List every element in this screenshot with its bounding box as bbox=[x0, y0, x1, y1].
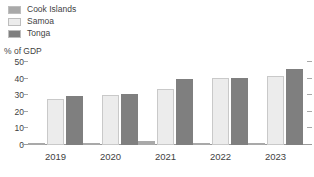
plot-area: 01020304050 20192020202120222023 bbox=[28, 62, 300, 145]
bar-cook-islands-2021[interactable] bbox=[138, 141, 155, 145]
legend-swatch-samoa bbox=[8, 18, 21, 26]
y-axis-title: % of GDP bbox=[4, 46, 42, 56]
bar-samoa-2019[interactable] bbox=[47, 99, 64, 145]
legend-swatch-tonga bbox=[8, 30, 21, 38]
bar-tonga-2020[interactable] bbox=[121, 94, 138, 145]
y-axis-tick-right bbox=[307, 94, 312, 95]
legend-item[interactable]: Samoa bbox=[8, 16, 76, 27]
bar-cook-islands-2019[interactable] bbox=[28, 143, 45, 145]
bar-group: 2022 bbox=[193, 62, 248, 145]
legend-item[interactable]: Cook Islands bbox=[8, 4, 76, 15]
bar-group: 2019 bbox=[28, 62, 83, 145]
x-axis-tick-label: 2021 bbox=[138, 151, 193, 162]
bar-chart: Cook IslandsSamoaTonga % of GDP 01020304… bbox=[0, 0, 314, 177]
bar-tonga-2023[interactable] bbox=[286, 69, 303, 145]
x-axis-tick-label: 2022 bbox=[193, 151, 248, 162]
bar-cook-islands-2023[interactable] bbox=[248, 143, 265, 145]
bar-group: 2023 bbox=[248, 62, 303, 145]
bar-tonga-2019[interactable] bbox=[66, 96, 83, 145]
y-axis-tick-label: 30 bbox=[15, 90, 24, 100]
y-axis-tick-label: 50 bbox=[15, 57, 24, 67]
y-axis-tick-right bbox=[307, 127, 312, 128]
y-axis-tick-label: 10 bbox=[15, 123, 24, 133]
bar-samoa-2021[interactable] bbox=[157, 89, 174, 145]
legend-swatch-cook-islands bbox=[8, 6, 21, 14]
x-axis-tick-label: 2023 bbox=[248, 151, 303, 162]
bar-group: 2020 bbox=[83, 62, 138, 145]
y-axis-tick-right bbox=[307, 78, 312, 79]
legend-label: Tonga bbox=[27, 29, 50, 38]
bar-tonga-2022[interactable] bbox=[231, 78, 248, 145]
y-axis-tick-label: 20 bbox=[15, 107, 24, 117]
legend-label: Cook Islands bbox=[27, 5, 76, 14]
bar-samoa-2023[interactable] bbox=[267, 76, 284, 145]
bar-cook-islands-2020[interactable] bbox=[83, 143, 100, 145]
bar-groups: 20192020202120222023 bbox=[28, 62, 300, 145]
bar-samoa-2022[interactable] bbox=[212, 78, 229, 145]
bar-cook-islands-2022[interactable] bbox=[193, 143, 210, 145]
bar-samoa-2020[interactable] bbox=[102, 95, 119, 145]
y-axis-tick-right bbox=[307, 111, 312, 112]
bar-group: 2021 bbox=[138, 62, 193, 145]
legend-label: Samoa bbox=[27, 17, 54, 26]
y-axis-tick-label: 0 bbox=[19, 140, 24, 150]
legend-item[interactable]: Tonga bbox=[8, 28, 76, 39]
y-axis-tick-label: 40 bbox=[15, 74, 24, 84]
bar-tonga-2021[interactable] bbox=[176, 79, 193, 145]
chart-legend: Cook IslandsSamoaTonga bbox=[8, 4, 76, 40]
y-axis-tick-right bbox=[307, 61, 312, 62]
x-axis-tick-label: 2019 bbox=[28, 151, 83, 162]
x-axis-tick-label: 2020 bbox=[83, 151, 138, 162]
